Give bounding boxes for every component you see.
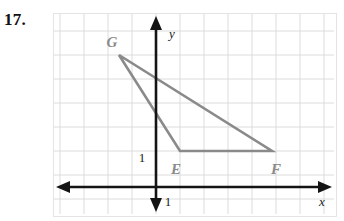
grid-lines	[54, 14, 334, 214]
y-axis-label: y	[167, 26, 175, 41]
figure-container: G E F 1 1 y x	[53, 13, 337, 217]
unit-label-horizontal: 1	[165, 194, 172, 209]
problem-number: 17.	[4, 10, 26, 30]
vertex-label-g: G	[107, 34, 118, 50]
vertex-label-f: F	[270, 161, 281, 177]
y-axis-arrow-up-icon	[150, 16, 162, 30]
x-axis	[56, 181, 332, 193]
x-axis-label: x	[318, 194, 325, 209]
y-axis-arrow-down-icon	[150, 198, 162, 212]
y-axis	[150, 16, 162, 212]
x-axis-arrow-left-icon	[56, 181, 70, 193]
vertex-label-e: E	[170, 161, 181, 177]
x-axis-arrow-right-icon	[318, 181, 332, 193]
unit-label-vertical: 1	[139, 150, 146, 165]
coordinate-plane-figure: G E F 1 1 y x	[54, 14, 334, 214]
